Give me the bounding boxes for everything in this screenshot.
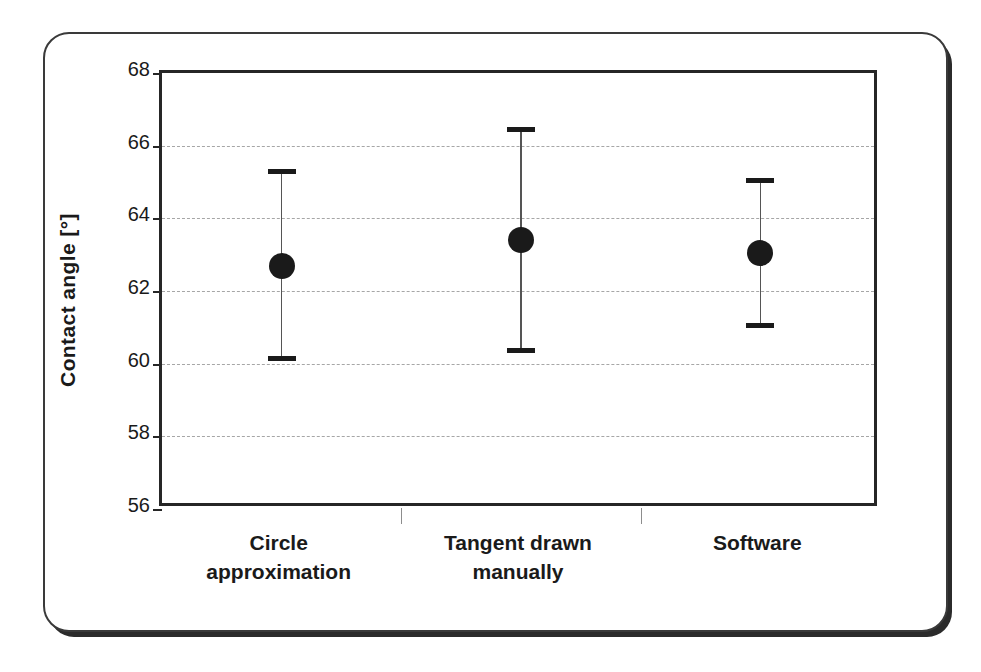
gridline	[162, 436, 874, 437]
y-axis-tick	[153, 73, 162, 75]
error-bar-cap-lower	[507, 348, 535, 353]
error-bar-cap-lower	[746, 323, 774, 328]
y-axis-tick	[153, 146, 162, 148]
figure-root: Contact angle [°] 68666462605856 Circlea…	[0, 0, 981, 672]
category-divider	[641, 508, 642, 524]
x-axis-category-label: Circleapproximation	[159, 528, 398, 586]
y-axis-tick	[153, 364, 162, 366]
y-axis-tick	[153, 509, 162, 511]
y-axis-tick-label: 60	[104, 350, 150, 370]
category-label-line: Circle	[159, 528, 398, 557]
x-axis-category-label: Software	[638, 528, 877, 557]
y-axis-tick-label: 64	[104, 204, 150, 224]
category-divider	[401, 508, 402, 524]
category-label-line: approximation	[159, 557, 398, 586]
error-bar-chart: Contact angle [°] 68666462605856 Circlea…	[0, 0, 981, 672]
y-axis-tick-label: 58	[104, 422, 150, 442]
category-label-line: Software	[638, 528, 877, 557]
category-label-line: Tangent drawn	[398, 528, 637, 557]
data-point-marker[interactable]	[747, 240, 773, 266]
y-axis-tick	[153, 436, 162, 438]
gridline	[162, 291, 874, 292]
y-axis-title: Contact angle [°]	[56, 170, 80, 430]
data-point-marker[interactable]	[508, 227, 534, 253]
x-axis-category-label: Tangent drawnmanually	[398, 528, 637, 586]
error-bar-cap-upper	[268, 169, 296, 174]
gridline	[162, 218, 874, 219]
y-axis-tick-label: 62	[104, 277, 150, 297]
y-axis-tick	[153, 291, 162, 293]
error-bar-cap-lower	[268, 356, 296, 361]
error-bar-cap-upper	[746, 178, 774, 183]
y-axis-tick	[153, 218, 162, 220]
y-axis-tick-label: 56	[104, 495, 150, 515]
error-bar-cap-upper	[507, 127, 535, 132]
data-point-marker[interactable]	[269, 253, 295, 279]
y-axis-tick-label: 66	[104, 132, 150, 152]
gridline	[162, 364, 874, 365]
y-axis-tick-label: 68	[104, 59, 150, 79]
category-label-line: manually	[398, 557, 637, 586]
gridline	[162, 146, 874, 147]
plot-area	[159, 70, 877, 506]
